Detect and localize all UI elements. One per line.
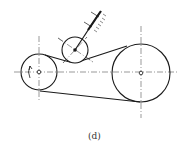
belt-drive-figure: (d)	[0, 0, 189, 152]
figure-caption: (d)	[0, 131, 189, 141]
belt	[40, 46, 140, 102]
belt-drive-diagram	[0, 0, 189, 152]
